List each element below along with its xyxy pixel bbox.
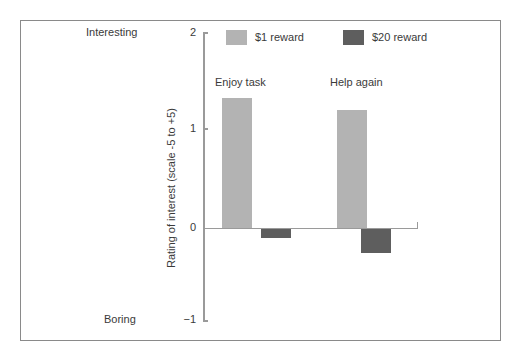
y-tick-neg1 [203,320,208,322]
axis-anchor-boring: Boring [104,314,136,325]
y-axis-line [203,32,205,320]
plot-area: 2 1 0 −1 Interesting Boring Rating of in… [0,0,521,361]
y-axis-title: Rating of interest (scale -5 to +5) [166,108,177,268]
bar-enjoy-task-20-dollar [261,229,291,238]
y-tick-label-2: 2 [166,27,196,38]
bar-help-again-1-dollar [337,110,367,228]
y-tick-label-neg1: −1 [166,314,196,325]
legend-swatch-dark-gray [343,30,364,45]
legend-label-20-dollar: $20 reward [372,32,427,43]
y-tick-1 [203,128,208,130]
legend-label-1-dollar: $1 reward [255,32,304,43]
group-label-help-again: Help again [330,77,383,88]
group-label-enjoy-task: Enjoy task [215,77,266,88]
zero-baseline-end-tick [417,222,419,228]
axis-anchor-interesting: Interesting [86,27,137,38]
legend-swatch-light-gray [226,30,247,45]
y-tick-0 [203,228,208,230]
bar-enjoy-task-1-dollar [222,98,252,228]
y-tick-2 [203,32,208,34]
chart-figure: 2 1 0 −1 Interesting Boring Rating of in… [0,0,521,361]
bar-help-again-20-dollar [361,229,391,253]
